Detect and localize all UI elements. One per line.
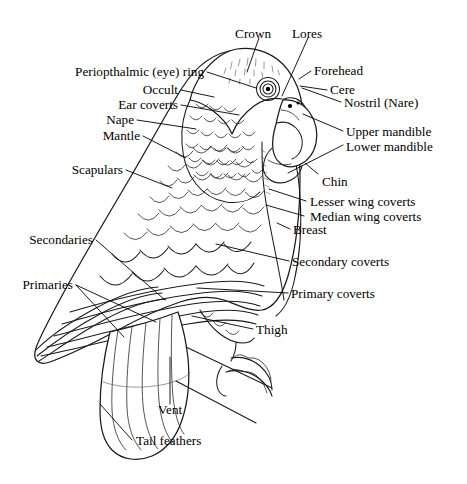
label-forehead: Forehead xyxy=(314,63,363,78)
parrot-anatomy-illustration: Crown Lores Periopthalmic (eye) ring For… xyxy=(0,0,467,484)
label-lower-mandible: Lower mandible xyxy=(346,139,433,154)
leader-forehead xyxy=(299,71,311,79)
label-primary-coverts: Primary coverts xyxy=(291,286,375,301)
label-secondary-coverts: Secondary coverts xyxy=(292,254,389,269)
perch-bottom-edge xyxy=(176,381,256,423)
bird-anatomy-figure: Crown Lores Periopthalmic (eye) ring For… xyxy=(0,0,467,484)
hind-claw xyxy=(217,366,226,396)
nostril-dot xyxy=(288,104,292,108)
label-ear-coverts: Ear coverts xyxy=(118,97,178,112)
label-vent: Vent xyxy=(158,402,183,417)
label-crown: Crown xyxy=(235,26,271,41)
label-secondaries: Secondaries xyxy=(29,232,93,247)
leader-chin xyxy=(305,163,318,174)
eye-group xyxy=(257,78,280,101)
leader-thigh xyxy=(192,316,253,329)
label-occult: Occult xyxy=(143,82,178,97)
upper-mandible xyxy=(273,100,317,167)
leader-cere xyxy=(300,86,327,90)
label-nostril: Nostril (Nare) xyxy=(344,95,418,110)
nostril-mark-secondary xyxy=(297,102,300,105)
label-thigh: Thigh xyxy=(256,322,288,337)
toe-scales-upper xyxy=(234,355,271,381)
front-toe-lower xyxy=(226,371,272,396)
perch-top-edge xyxy=(186,347,272,388)
eye-pupil xyxy=(266,87,270,91)
label-scapulars: Scapulars xyxy=(72,162,123,177)
label-periopthalmic-ring: Periopthalmic (eye) ring xyxy=(75,64,204,79)
label-chin: Chin xyxy=(322,174,348,189)
thigh-feather-scallops xyxy=(200,312,239,335)
label-lores: Lores xyxy=(292,26,322,41)
label-mantle: Mantle xyxy=(103,128,141,143)
label-upper-mandible: Upper mandible xyxy=(346,124,431,139)
label-primaries: Primaries xyxy=(22,277,73,292)
label-nape: Nape xyxy=(106,112,134,127)
thigh-outline xyxy=(200,310,254,343)
label-tail-feathers: Tail feathers xyxy=(136,433,201,448)
label-lesser-wing-coverts: Lesser wing coverts xyxy=(310,194,415,209)
label-breast: Breast xyxy=(293,222,327,237)
